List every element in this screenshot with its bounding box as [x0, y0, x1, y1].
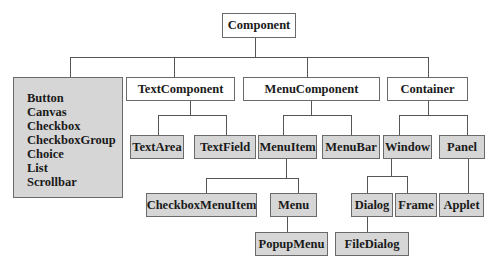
connector [158, 115, 227, 116]
connector [283, 115, 284, 135]
node-menuitem: MenuItem [258, 135, 317, 159]
class-hierarchy-diagram: Component Button Canvas Checkbox Checkbo… [0, 0, 501, 272]
connector [367, 217, 368, 232]
connector [70, 57, 429, 58]
node-component: Component [222, 13, 296, 38]
connector [287, 216, 288, 232]
leaf-item: Canvas [27, 105, 122, 119]
leaf-item: Checkbox [27, 119, 122, 133]
leaf-item: Button [27, 91, 122, 105]
node-filedialog: FileDialog [335, 232, 409, 256]
connector [391, 158, 392, 176]
connector [70, 57, 71, 77]
node-popupmenu: PopupMenu [255, 232, 328, 256]
connector [428, 57, 429, 77]
connector [468, 158, 469, 193]
connector [399, 115, 468, 116]
node-frame: Frame [395, 193, 437, 217]
connector [351, 115, 352, 135]
leaf-item: CheckboxGroup [27, 133, 122, 147]
leaf-item: Scrollbar [27, 175, 122, 189]
node-menucomponent: MenuComponent [243, 77, 380, 101]
node-textfield: TextField [194, 135, 256, 159]
node-textcomponent: TextComponent [126, 77, 235, 101]
connector [286, 158, 287, 178]
connector [206, 178, 299, 179]
node-dialog: Dialog [351, 193, 393, 217]
connector [367, 176, 408, 177]
connector [226, 115, 227, 135]
connector [283, 115, 352, 116]
node-checkboxmenuitem: CheckboxMenuItem [146, 193, 257, 217]
connector [174, 57, 175, 77]
node-container: Container [387, 77, 468, 101]
connector [399, 115, 400, 135]
connector [255, 37, 256, 57]
connector [467, 115, 468, 135]
connector [428, 100, 429, 115]
leaf-item: Choice [27, 147, 122, 161]
connector [298, 178, 299, 193]
connector [158, 115, 159, 135]
connector [311, 100, 312, 115]
connector [307, 57, 308, 77]
connector [206, 178, 207, 193]
connector [190, 100, 191, 115]
node-leaf-group: Button Canvas Checkbox CheckboxGroup Cho… [13, 77, 123, 198]
node-textarea: TextArea [130, 135, 184, 159]
node-applet: Applet [439, 193, 484, 217]
leaf-item: List [27, 161, 122, 175]
node-panel: Panel [439, 135, 485, 159]
node-menubar: MenuBar [322, 135, 380, 159]
node-menu: Menu [270, 193, 317, 217]
connector [367, 176, 368, 193]
connector [407, 176, 408, 193]
node-window: Window [383, 135, 432, 159]
